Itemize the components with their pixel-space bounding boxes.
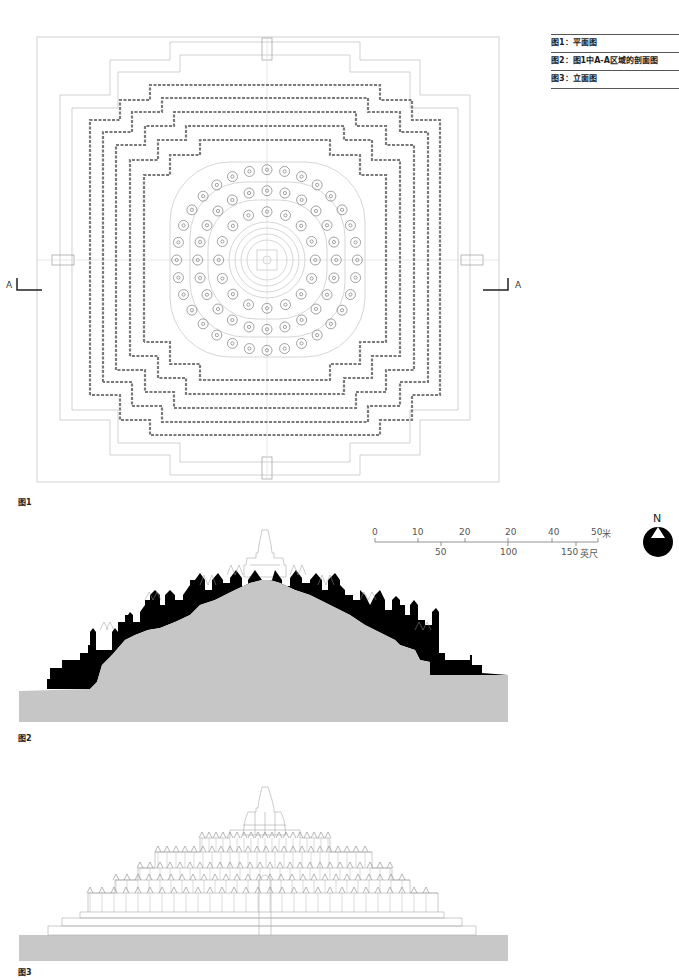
caption-fig1: 图1 xyxy=(18,496,32,507)
section-marker-right: A xyxy=(515,280,521,290)
scale-tick-ft-150: 150 xyxy=(561,547,578,557)
scale-tick-m-0: 0 xyxy=(372,527,378,537)
scale-tick-ft-100: 100 xyxy=(500,547,517,557)
scale-tick-m-50: 50 xyxy=(591,527,602,537)
scale-tick-m-10: 10 xyxy=(412,527,423,537)
north-label: N xyxy=(653,512,661,525)
caption-fig3: 图3 xyxy=(18,966,32,977)
scale-unit-feet: 英尺 xyxy=(580,547,598,560)
caption-fig2: 图2 xyxy=(18,732,32,743)
scale-tick-m-20b: 20 xyxy=(505,527,516,537)
plan-drawing xyxy=(0,0,679,980)
scale-unit-meters: 米 xyxy=(602,527,611,540)
section-marker-left: A xyxy=(6,280,12,290)
scale-tick-ft-50: 50 xyxy=(435,547,446,557)
scale-tick-m-40: 40 xyxy=(548,527,559,537)
scale-tick-m-20a: 20 xyxy=(459,527,470,537)
